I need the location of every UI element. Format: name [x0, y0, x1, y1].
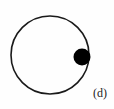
panel-label: (d) — [93, 86, 107, 100]
filled-dot-marker — [74, 49, 91, 66]
figure-panel: (d) — [0, 0, 114, 109]
